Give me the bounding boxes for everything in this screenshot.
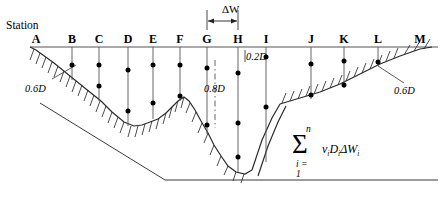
station-label-g: G (202, 33, 211, 45)
summation-upper-limit: n (306, 124, 311, 134)
station-label-m: M (414, 33, 425, 45)
right-bank-depth-label: 0.6D (394, 86, 415, 97)
station-label-i: I (264, 33, 269, 45)
station-label-k: K (339, 33, 348, 45)
term-depth: D (329, 142, 338, 156)
stream-cross-section-figure: Station A B C D E F G H I J K L M ΔW 0.6… (0, 0, 442, 215)
station-label-b: B (68, 33, 76, 45)
station-label-c: C (95, 33, 104, 45)
station-label-d: D (124, 33, 133, 45)
deep-depth-label: 0.8D (204, 84, 225, 95)
summation-lower-limit: i = 1 (296, 159, 308, 179)
discharge-formula: Σ n i = 1 viDiΔWi (292, 133, 308, 155)
station-label-j: J (308, 33, 314, 45)
station-label-l: L (374, 33, 382, 45)
shallow-depth-label: 0.2D (246, 52, 267, 63)
delta-w-label: ΔW (222, 4, 239, 15)
term-width-sub: i (357, 149, 359, 158)
summation-body: viDiΔWi (322, 142, 359, 158)
term-width: ΔW (340, 142, 357, 156)
channel-bed-profile (30, 47, 252, 174)
left-bank-depth-label: 0.6D (25, 84, 46, 95)
station-label-f: F (176, 33, 183, 45)
station-label-e: E (149, 33, 157, 45)
station-label-h: H (233, 33, 242, 45)
station-label-a: A (32, 33, 41, 45)
leader-right-0-6d (378, 66, 404, 83)
datum-baseline (40, 103, 438, 180)
summation-sigma: Σ (292, 133, 308, 155)
station-caption: Station (6, 20, 39, 32)
